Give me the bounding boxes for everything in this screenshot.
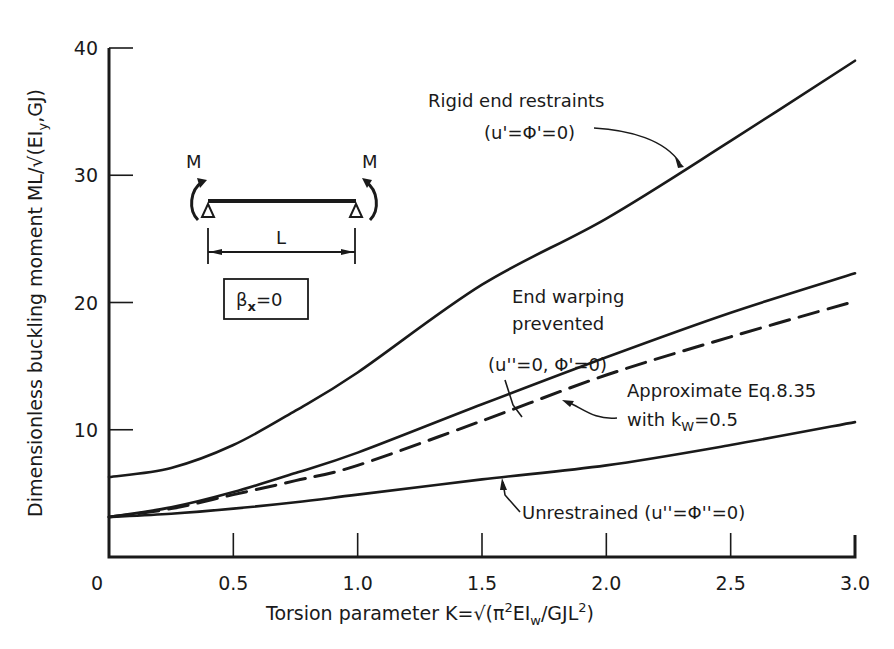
- x-tick-label: 1.5: [467, 572, 497, 594]
- moment-arrow-right-icon: [366, 182, 376, 220]
- moment-label-right: M: [362, 151, 378, 172]
- x-tick-label: 2.5: [716, 572, 746, 594]
- leader-arrow-unrestrained: [503, 482, 520, 512]
- annotation-rigid: Rigid end restraints (u'=Φ'=0): [428, 90, 684, 168]
- pin-support-right-icon: [350, 204, 362, 217]
- y-tick-label: 40: [74, 37, 98, 59]
- annotation-warping-condition: (u''=0, Φ'=0): [488, 354, 607, 375]
- x-tick-label: 0.5: [218, 572, 248, 594]
- annotation-approx-title: Approximate Eq.8.35: [627, 380, 816, 401]
- arrowhead-icon: [341, 249, 354, 255]
- x-tick-label: 0: [91, 572, 103, 594]
- arrowhead-icon: [209, 249, 222, 255]
- y-tick-label: 10: [74, 419, 98, 441]
- x-tick-label: 3.0: [840, 572, 870, 594]
- moment-label-left: M: [186, 151, 202, 172]
- leader-arrow-rigid: [594, 128, 680, 163]
- plot-area: 00.51.01.52.02.53.0 10203040: [74, 37, 870, 594]
- x-tick-label: 1.0: [343, 572, 373, 594]
- y-tick-label: 20: [74, 292, 98, 314]
- annotation-approx-kw: with kW=0.5: [627, 409, 738, 434]
- x-tick-label: 2.0: [591, 572, 621, 594]
- series-line-2: [109, 301, 855, 517]
- annotation-unrestrained-label: Unrestrained (u''=Φ''=0): [522, 502, 745, 523]
- arrowhead-icon: [675, 157, 684, 168]
- annotation-warping-title: End warping: [512, 286, 624, 307]
- annotation-unrestrained: Unrestrained (u''=Φ''=0): [500, 478, 745, 523]
- arrowhead-icon: [562, 400, 574, 407]
- x-axis-title: Torsion parameter K=√(π2EIw/GJL2): [265, 600, 594, 628]
- moment-arrow-left-icon: [192, 182, 202, 220]
- annotation-approximate: Approximate Eq.8.35 with kW=0.5: [562, 380, 816, 434]
- annotation-end-warping: End warping prevented (u''=0, Φ'=0): [488, 286, 624, 417]
- leader-arrow-warping: [505, 380, 522, 417]
- series-line-0: [109, 61, 855, 477]
- leader-arrow-approx: [568, 402, 617, 418]
- y-axis-ticks: 10203040: [74, 37, 133, 441]
- chart: 00.51.01.52.02.53.0 10203040 Dimensionle…: [0, 0, 894, 649]
- annotation-rigid-condition: (u'=Φ'=0): [484, 122, 575, 143]
- y-axis-title: Dimensionless buckling moment ML/√(EIy,G…: [24, 89, 50, 517]
- annotation-warping-title-2: prevented: [512, 313, 604, 334]
- span-label: L: [276, 227, 286, 248]
- series-lines: [109, 61, 855, 517]
- x-axis-ticks: 00.51.01.52.02.53.0: [91, 533, 870, 594]
- annotation-rigid-title: Rigid end restraints: [428, 90, 605, 111]
- pin-support-left-icon: [202, 204, 214, 217]
- arrowhead-icon: [500, 478, 507, 490]
- inset-beam-diagram: M M L βx=0: [186, 151, 378, 319]
- y-tick-label: 30: [74, 164, 98, 186]
- beta-label: βx=0: [236, 289, 282, 314]
